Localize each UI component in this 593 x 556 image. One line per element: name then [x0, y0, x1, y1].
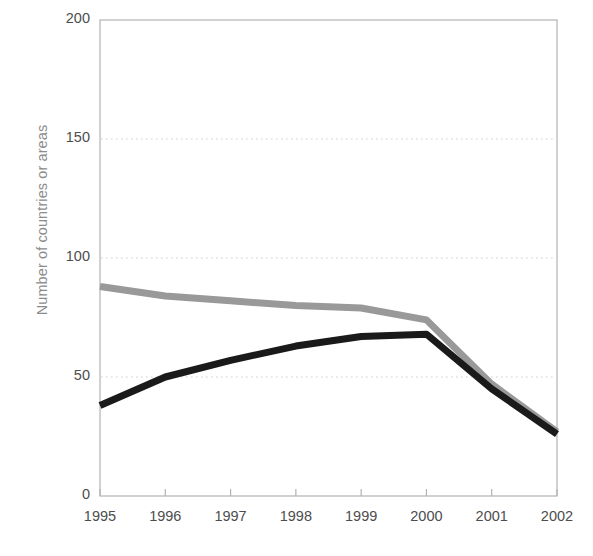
x-tick-label: 1997 — [201, 508, 261, 524]
y-tick-label: 50 — [30, 367, 90, 383]
y-tick-label: 0 — [30, 486, 90, 502]
y-tick-label: 200 — [30, 10, 90, 26]
x-tick-label: 2001 — [462, 508, 522, 524]
y-tick-label: 100 — [30, 248, 90, 264]
x-tick-label: 1998 — [266, 508, 326, 524]
plot-frame — [100, 20, 557, 496]
x-tick-label: 1999 — [331, 508, 391, 524]
series-line-black-series — [100, 334, 557, 434]
chart-plot-area — [0, 0, 593, 556]
x-tick-label: 1995 — [70, 508, 130, 524]
x-tick-label: 2000 — [396, 508, 456, 524]
x-tick-label: 1996 — [135, 508, 195, 524]
series-line-gray-series — [100, 287, 557, 432]
line-chart: Number of countries or areas 05010015020… — [0, 0, 593, 556]
x-tick-label: 2002 — [527, 508, 587, 524]
y-tick-label: 150 — [30, 129, 90, 145]
